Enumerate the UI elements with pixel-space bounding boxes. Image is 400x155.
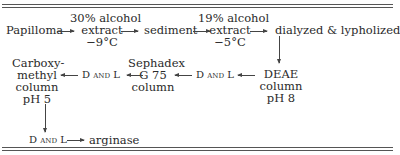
arrow-right-icon xyxy=(250,31,267,32)
bottom-rule-1 xyxy=(2,147,393,148)
node-dl2: D and L xyxy=(82,69,120,81)
arrow-left-icon xyxy=(61,75,78,76)
node-dl3: D and L xyxy=(29,134,67,146)
node-sediment: sediment xyxy=(144,24,198,36)
top-rule-2 xyxy=(2,7,393,8)
node-extract2-bottom: −5°C xyxy=(198,36,262,48)
node-carboxymethyl-4: pH 5 xyxy=(12,93,62,105)
arrow-right-icon xyxy=(121,31,138,32)
arrow-left-icon xyxy=(238,75,255,76)
node-extract1-bottom: −9°C xyxy=(70,36,134,48)
node-dl1: D and L xyxy=(196,69,234,81)
arrow-right-icon xyxy=(67,140,84,141)
arrow-left-icon xyxy=(127,75,143,76)
node-deae-3: pH 8 xyxy=(256,92,306,104)
top-rule-1 xyxy=(2,4,393,5)
node-sephadex-3: column xyxy=(128,81,178,93)
node-arginase: arginase xyxy=(89,134,139,146)
node-dialyzed: dialyzed & lypholized xyxy=(275,24,400,36)
node-papilloma: Papilloma xyxy=(6,24,63,36)
arrow-down-icon xyxy=(279,36,280,63)
arrow-down-icon xyxy=(45,104,46,132)
bottom-rule-2 xyxy=(2,150,393,151)
